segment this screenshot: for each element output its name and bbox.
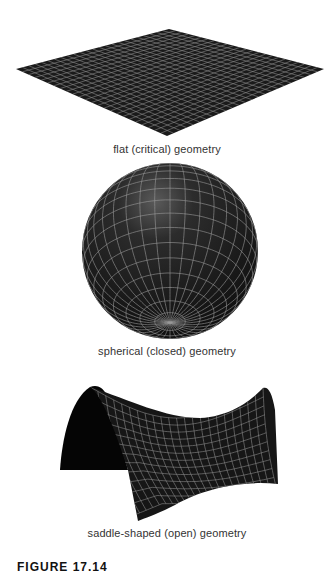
saddle-illustration bbox=[0, 375, 334, 525]
sphere-illustration bbox=[0, 158, 334, 343]
flat-geometry-panel: flat (critical) geometry bbox=[0, 0, 334, 160]
figure-label: FIGURE 17.14 bbox=[17, 560, 108, 574]
saddle-geometry-panel: saddle-shaped (open) geometry bbox=[0, 375, 334, 545]
flat-plane-illustration bbox=[0, 0, 334, 145]
saddle-geometry-caption: saddle-shaped (open) geometry bbox=[0, 527, 334, 539]
flat-geometry-caption: flat (critical) geometry bbox=[0, 143, 334, 155]
spherical-geometry-caption: spherical (closed) geometry bbox=[0, 345, 334, 357]
spherical-geometry-panel: spherical (closed) geometry bbox=[0, 158, 334, 358]
